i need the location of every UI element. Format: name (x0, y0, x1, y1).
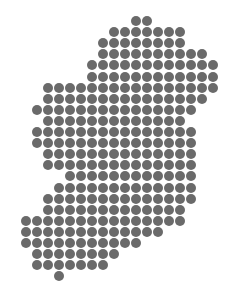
map-dot (43, 160, 53, 170)
map-dot (153, 160, 163, 170)
map-dot (65, 138, 75, 148)
map-dot (32, 138, 42, 148)
map-dot (142, 72, 152, 82)
map-dot (175, 38, 185, 48)
map-dot (54, 227, 64, 237)
map-dot (120, 49, 130, 59)
map-dot (76, 249, 86, 259)
map-dot (131, 205, 141, 215)
map-dot (153, 116, 163, 126)
map-dot (76, 216, 86, 226)
map-dot (32, 127, 42, 137)
map-dot (76, 205, 86, 215)
map-dot (87, 260, 97, 270)
map-dot (76, 94, 86, 104)
map-dot (142, 94, 152, 104)
map-dot (153, 149, 163, 159)
map-dot (175, 72, 185, 82)
map-dot (131, 27, 141, 37)
map-dot (131, 60, 141, 70)
map-dot (153, 194, 163, 204)
map-dot (186, 72, 196, 82)
map-dot (87, 238, 97, 248)
map-dot (109, 216, 119, 226)
map-dot (76, 171, 86, 181)
map-dot (54, 149, 64, 159)
map-dot (131, 138, 141, 148)
map-dot (65, 238, 75, 248)
map-dot (164, 27, 174, 37)
map-dot (153, 72, 163, 82)
map-dot (76, 105, 86, 115)
map-dot (98, 49, 108, 59)
map-dot (98, 260, 108, 270)
map-dot (208, 60, 218, 70)
map-dot (43, 116, 53, 126)
map-dot (87, 227, 97, 237)
map-dot (98, 138, 108, 148)
map-dot (186, 171, 196, 181)
map-dot (186, 127, 196, 137)
map-dot (65, 149, 75, 159)
map-dot (153, 138, 163, 148)
map-dot (98, 205, 108, 215)
map-dot (186, 60, 196, 70)
map-dot (142, 49, 152, 59)
map-dot (87, 138, 97, 148)
map-dot (76, 194, 86, 204)
map-dot (98, 171, 108, 181)
map-dot (76, 260, 86, 270)
map-dot (142, 27, 152, 37)
map-dot (98, 72, 108, 82)
map-dot (164, 216, 174, 226)
map-dot (164, 149, 174, 159)
map-dot (65, 160, 75, 170)
map-dot (87, 116, 97, 126)
map-dot (164, 38, 174, 48)
map-dot (76, 238, 86, 248)
map-dot (175, 194, 185, 204)
map-dot (175, 149, 185, 159)
map-dot (120, 105, 130, 115)
map-dot (164, 105, 174, 115)
map-dot (109, 38, 119, 48)
map-dot (21, 238, 31, 248)
map-dot (98, 127, 108, 137)
map-dot (76, 149, 86, 159)
map-dot (87, 127, 97, 137)
map-dot (186, 94, 196, 104)
map-dot (54, 127, 64, 137)
map-dot (98, 160, 108, 170)
map-dot (186, 105, 196, 115)
map-dot (109, 183, 119, 193)
map-dot (54, 116, 64, 126)
map-dot (120, 94, 130, 104)
map-dot (164, 83, 174, 93)
map-dot (131, 16, 141, 26)
map-dot (142, 194, 152, 204)
map-dot (175, 60, 185, 70)
map-dot (98, 227, 108, 237)
map-dot (65, 94, 75, 104)
map-dot (131, 127, 141, 137)
map-dot (186, 49, 196, 59)
map-dot (175, 183, 185, 193)
map-dot (186, 160, 196, 170)
map-dot (120, 205, 130, 215)
map-dot (76, 227, 86, 237)
map-dot (164, 72, 174, 82)
map-dot (43, 105, 53, 115)
map-dot (186, 194, 196, 204)
map-dot (120, 149, 130, 159)
map-dot (76, 83, 86, 93)
map-dot (131, 72, 141, 82)
map-dot (65, 116, 75, 126)
map-dot (131, 183, 141, 193)
map-dot (131, 105, 141, 115)
map-dot (131, 216, 141, 226)
map-dot (153, 127, 163, 137)
map-dot (109, 249, 119, 259)
map-dot (65, 249, 75, 259)
map-dot (76, 160, 86, 170)
map-dot (98, 238, 108, 248)
